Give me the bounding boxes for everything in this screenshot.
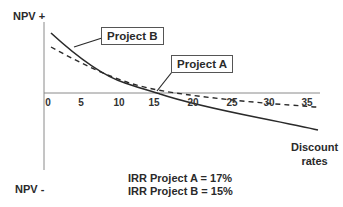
irr-annotation: IRR Project A = 17% IRR Project B = 15% bbox=[128, 172, 233, 198]
x-axis-label-line2: rates bbox=[291, 154, 338, 168]
x-tick-35: 35 bbox=[301, 97, 312, 108]
x-tick-25: 25 bbox=[226, 97, 237, 108]
project-b-pointer bbox=[74, 38, 102, 47]
irr-project-a: IRR Project A = 17% bbox=[128, 172, 233, 185]
x-tick-30: 30 bbox=[263, 97, 274, 108]
project-b-curve bbox=[51, 33, 318, 130]
project-b-label: Project B bbox=[101, 27, 164, 45]
project-a-pointer bbox=[157, 72, 172, 91]
irr-project-b: IRR Project B = 15% bbox=[128, 185, 233, 198]
npv-minus-label: NPV - bbox=[15, 183, 44, 195]
x-axis-label: Discount rates bbox=[291, 140, 338, 168]
x-tick-0: 0 bbox=[45, 97, 51, 108]
x-tick-15: 15 bbox=[148, 97, 159, 108]
x-axis-label-line1: Discount bbox=[291, 140, 338, 154]
npv-plus-label: NPV + bbox=[13, 10, 45, 22]
x-tick-20: 20 bbox=[187, 97, 198, 108]
x-tick-10: 10 bbox=[113, 97, 124, 108]
project-a-label: Project A bbox=[171, 55, 233, 73]
x-tick-5: 5 bbox=[78, 97, 84, 108]
